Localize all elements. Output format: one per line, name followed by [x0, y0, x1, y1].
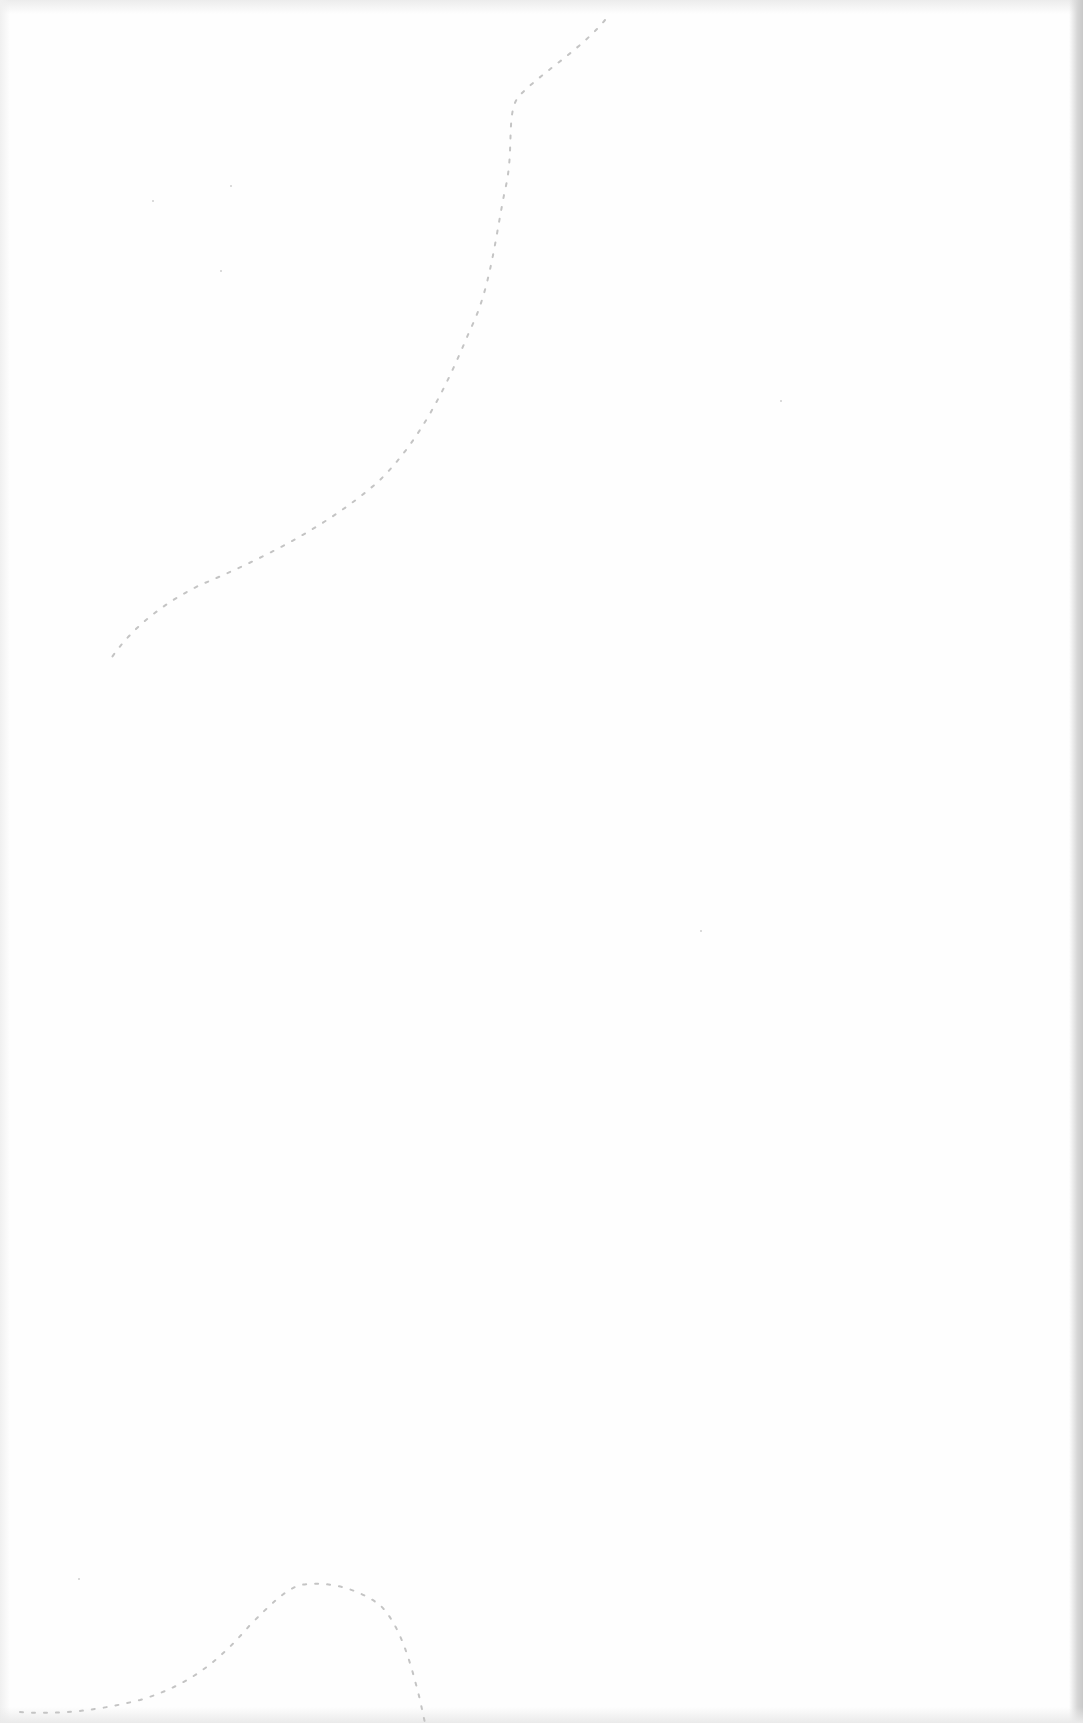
paper-speck [78, 1578, 80, 1580]
upper-crease-line [110, 20, 605, 660]
lower-crease-line [20, 1584, 425, 1723]
paper-crease-lines [0, 0, 1083, 1723]
blank-page [0, 0, 1083, 1723]
paper-speck [780, 400, 782, 402]
paper-speck [230, 185, 232, 187]
paper-speck [700, 930, 702, 932]
paper-speck [220, 270, 222, 272]
paper-speck [152, 200, 154, 202]
